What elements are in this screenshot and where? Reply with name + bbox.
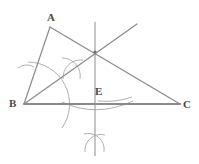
vertex-label-a: A [47,12,55,23]
vertex-label-b: B [9,98,16,109]
geometry-figure: A B C E [0,0,199,164]
concurrency-dot-marker [93,50,96,53]
markers-group [93,50,96,53]
side-ab-line [24,27,50,104]
side-ac-line [50,27,180,104]
perp-bisector-arc-below-arc [62,101,133,110]
point-label-e: E [95,86,102,97]
bisector-tick-on-bc-arc [98,97,132,101]
vertex-label-c: C [183,99,191,110]
bisector-tick-on-ab-arc [18,65,34,68]
geometry-canvas [0,0,199,164]
